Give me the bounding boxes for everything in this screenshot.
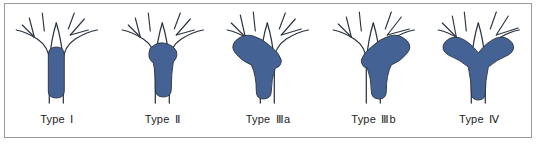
- diagram-type-3a: [215, 3, 321, 115]
- caption-numeral-type-3b: Ⅲ: [379, 113, 389, 125]
- caption-suffix-type-3a: a: [284, 113, 290, 125]
- panel-caption-type-3b: Type Ⅲb: [321, 113, 427, 126]
- figure-container: Type Ⅰ: [0, 0, 538, 145]
- lesion-shape-type-1: [48, 47, 64, 98]
- lesion-shape-type-4: [443, 37, 514, 100]
- panel-caption-type-1: Type Ⅰ: [4, 113, 110, 126]
- panel-type-2: Type Ⅱ: [110, 3, 216, 138]
- caption-numeral-type-1: Ⅰ: [68, 113, 73, 125]
- diagram-type-1: [4, 3, 110, 115]
- panel-type-3a: Type Ⅲa: [215, 3, 321, 138]
- caption-prefix-type-3b: Type: [351, 113, 376, 125]
- caption-prefix-type-1: Type: [40, 113, 65, 125]
- panel-type-3b: Type Ⅲb: [321, 3, 427, 138]
- panel-caption-type-4: Type Ⅳ: [426, 113, 532, 126]
- panel-type-4: Type Ⅳ: [426, 3, 532, 138]
- caption-prefix-type-2: Type: [145, 113, 170, 125]
- caption-suffix-type-3b: b: [389, 113, 395, 125]
- caption-prefix-type-4: Type: [459, 113, 484, 125]
- diagram-type-4: [426, 3, 532, 115]
- caption-prefix-type-3a: Type: [246, 113, 271, 125]
- caption-numeral-type-4: Ⅳ: [487, 113, 499, 125]
- diagram-type-2: [110, 3, 216, 115]
- lesion-shape-type-2: [148, 43, 176, 97]
- panel-row: Type Ⅰ: [4, 3, 532, 138]
- panel-caption-type-3a: Type Ⅲa: [215, 113, 321, 126]
- caption-numeral-type-2: Ⅱ: [173, 113, 180, 125]
- diagram-type-3b: [321, 3, 427, 115]
- panel-caption-type-2: Type Ⅱ: [110, 113, 216, 126]
- panel-type-1: Type Ⅰ: [4, 3, 110, 138]
- caption-numeral-type-3a: Ⅲ: [274, 113, 284, 125]
